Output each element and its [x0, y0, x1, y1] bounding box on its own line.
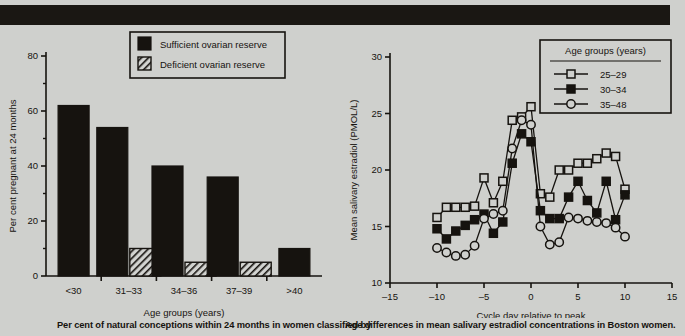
data-point	[583, 217, 591, 225]
data-point	[555, 215, 563, 223]
x-tick-label: 31–33	[116, 285, 142, 296]
legend: Age groups (years)25–2930–3435–48	[540, 40, 671, 113]
data-point	[536, 207, 544, 215]
data-point	[517, 116, 525, 124]
data-point	[508, 144, 516, 152]
data-point	[574, 159, 582, 167]
x-tick-label: 15	[667, 291, 678, 302]
legend-label: Deficient ovarian reserve	[160, 59, 265, 70]
data-point	[602, 177, 610, 185]
data-point	[480, 214, 488, 222]
y-axis-title: Mean salivary estradiol (PMOL/L)	[348, 100, 359, 241]
data-point	[593, 155, 601, 163]
bar-deficient	[240, 262, 271, 276]
data-point	[499, 177, 507, 185]
y-tick-label: 80	[27, 50, 38, 61]
data-point	[536, 222, 544, 230]
x-axis-title: Age groups (years)	[144, 307, 225, 318]
right-figure-caption: Age differences in mean salivary estradi…	[345, 320, 675, 330]
data-point	[433, 244, 441, 252]
y-axis-ticks: 1015202530	[371, 51, 390, 288]
data-point	[442, 203, 450, 211]
data-point	[499, 218, 507, 226]
data-point	[508, 116, 516, 124]
y-axis-title: Per cent pregnant at 24 months	[7, 99, 18, 232]
x-tick-label: 37–39	[226, 285, 252, 296]
legend-label: 30–34	[600, 84, 626, 95]
data-point	[433, 213, 441, 221]
x-tick-label: 0	[528, 291, 533, 302]
x-axis-ticks: –15–10–5051015	[382, 283, 677, 302]
data-point	[555, 166, 563, 174]
legend-marker-30–34	[567, 85, 575, 93]
data-point	[452, 252, 460, 260]
data-point	[565, 166, 573, 174]
data-point	[555, 238, 563, 246]
legend-title: Age groups (years)	[565, 45, 646, 56]
data-point	[583, 159, 591, 167]
x-tick-label: <30	[66, 285, 82, 296]
data-point	[470, 242, 478, 250]
bar-chart: 020406080<3031–3334–3637–39>40Age groups…	[0, 0, 342, 318]
line-chart: 1015202530–15–10–5051015Cycle day relati…	[342, 0, 685, 318]
legend-swatch-deficient	[138, 57, 151, 70]
data-point	[461, 203, 469, 211]
data-point	[564, 213, 572, 221]
data-point	[565, 193, 573, 201]
legend-swatch-sufficient	[138, 37, 151, 50]
data-point	[527, 121, 535, 129]
data-point	[452, 203, 460, 211]
legend-marker-35–48	[567, 100, 575, 108]
data-point	[471, 202, 479, 210]
y-tick-label: 30	[371, 51, 382, 62]
y-tick-label: 40	[27, 160, 38, 171]
data-point	[602, 149, 610, 157]
data-point	[546, 215, 554, 223]
x-tick-label: >40	[286, 285, 302, 296]
x-tick-label: 34–36	[171, 285, 197, 296]
x-tick-label: 10	[620, 291, 631, 302]
legend-label: 35–48	[600, 99, 626, 110]
x-tick-label: –15	[382, 291, 398, 302]
data-point	[574, 214, 582, 222]
data-point	[489, 210, 497, 218]
y-tick-label: 20	[27, 215, 38, 226]
data-point	[574, 177, 582, 185]
bar-sufficient	[207, 177, 238, 276]
data-point	[527, 138, 535, 146]
y-tick-label: 0	[33, 270, 38, 281]
data-point	[546, 240, 554, 248]
data-point	[452, 227, 460, 235]
data-point	[527, 103, 535, 111]
legend-marker-25–29	[567, 70, 575, 78]
data-point	[621, 191, 629, 199]
y-tick-label: 25	[371, 108, 382, 119]
x-axis-ticks: <3031–3334–3637–39>40	[66, 276, 303, 296]
data-point	[593, 218, 601, 226]
data-point	[583, 197, 591, 205]
x-axis-title: Cycle day relative to peak	[477, 310, 586, 318]
bar-sufficient	[58, 106, 89, 277]
data-point	[612, 152, 620, 160]
data-point	[499, 206, 507, 214]
data-point	[442, 248, 450, 256]
y-tick-label: 20	[371, 164, 382, 175]
data-point	[471, 216, 479, 224]
x-tick-label: –10	[429, 291, 445, 302]
data-point	[612, 216, 620, 224]
data-point	[480, 174, 488, 182]
x-tick-label: –5	[479, 291, 490, 302]
bar-sufficient	[97, 128, 128, 277]
y-tick-label: 10	[371, 277, 382, 288]
data-point	[518, 130, 526, 138]
legend-label: 25–29	[600, 69, 626, 80]
legend: Sufficient ovarian reserveDeficient ovar…	[130, 32, 285, 78]
right-figure-panel: 1015202530–15–10–5051015Cycle day relati…	[342, 0, 685, 336]
data-point	[461, 251, 469, 259]
data-point	[433, 225, 441, 233]
y-tick-label: 15	[371, 221, 382, 232]
bar-sufficient	[152, 166, 183, 276]
x-tick-label: 5	[575, 291, 580, 302]
bars-group	[58, 106, 310, 277]
left-figure-panel: 020406080<3031–3334–3637–39>40Age groups…	[0, 0, 342, 336]
